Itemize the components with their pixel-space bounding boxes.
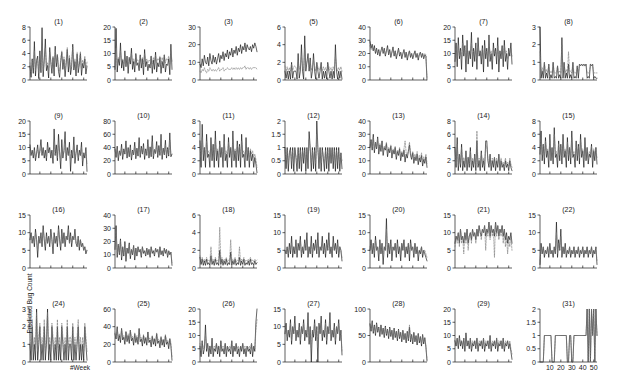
y-tick-label: 5 bbox=[447, 247, 451, 254]
series-line-actual bbox=[455, 333, 512, 360]
y-tick-label: 10 bbox=[528, 229, 536, 236]
y-tick-label: 0 bbox=[447, 171, 451, 178]
subplot-5: (5)0246 bbox=[259, 14, 350, 99]
axis-lines bbox=[540, 215, 597, 268]
y-tick-label: 0 bbox=[107, 265, 111, 272]
y-tick-label: 6 bbox=[192, 131, 196, 138]
subplot-29: (29)05101520 bbox=[429, 296, 520, 381]
series-line-predicted bbox=[285, 134, 342, 163]
y-tick-label: 6 bbox=[192, 212, 196, 219]
subplot-31: (31)00.511.521020304050 bbox=[514, 296, 605, 381]
y-tick-label: 0 bbox=[22, 359, 26, 366]
y-tick-label: 1 bbox=[277, 144, 281, 151]
subplot-20: (20)051015 bbox=[344, 202, 435, 287]
axis-lines bbox=[370, 27, 427, 80]
y-tick-label: 0 bbox=[192, 171, 196, 178]
y-tick-label: 20 bbox=[358, 144, 366, 151]
y-tick-label: 15 bbox=[18, 131, 26, 138]
series-line-actual bbox=[285, 36, 342, 79]
subplot-title: (13) bbox=[392, 112, 404, 120]
y-tick-label: 0 bbox=[107, 171, 111, 178]
y-tick-label: 15 bbox=[273, 212, 281, 219]
y-tick-label: 6 bbox=[22, 37, 26, 44]
subplot-title: (18) bbox=[222, 206, 234, 214]
y-tick-label: 2 bbox=[192, 157, 196, 164]
y-tick-label: 60 bbox=[103, 131, 111, 138]
y-tick-label: 10 bbox=[273, 229, 281, 236]
y-tick-label: 1 bbox=[532, 59, 536, 66]
y-tick-label: 0 bbox=[532, 77, 536, 84]
subplot-28: (28)050100 bbox=[344, 296, 435, 381]
series-line-predicted bbox=[370, 137, 427, 164]
subplot-title: (25) bbox=[137, 300, 149, 308]
y-tick-label: 30 bbox=[358, 37, 366, 44]
y-tick-label: 3 bbox=[532, 24, 536, 31]
subplot-15: (15)02468 bbox=[514, 108, 605, 193]
subplot-6: (6)010203040 bbox=[344, 14, 435, 99]
y-tick-label: 0.5 bbox=[526, 345, 536, 352]
y-tick-label: 2 bbox=[532, 306, 536, 313]
y-tick-label: 40 bbox=[103, 212, 111, 219]
series-line-predicted bbox=[285, 48, 342, 72]
series-line-actual bbox=[115, 327, 172, 361]
y-tick-label: 4 bbox=[22, 50, 26, 57]
y-tick-label: 0 bbox=[277, 77, 281, 84]
y-tick-label: 30 bbox=[103, 225, 111, 232]
subplot-title: (2) bbox=[139, 18, 148, 26]
series-line-predicted bbox=[200, 66, 257, 73]
y-tick-label: 4 bbox=[192, 144, 196, 151]
axis-lines bbox=[200, 27, 257, 80]
y-tick-label: 10 bbox=[103, 50, 111, 57]
y-tick-label: 40 bbox=[358, 118, 366, 125]
y-tick-label: 2 bbox=[447, 157, 451, 164]
y-tick-label: 10 bbox=[103, 251, 111, 258]
subplot-27: (27)051015 bbox=[259, 296, 350, 381]
series-line-actual bbox=[200, 250, 257, 265]
subplot-title: (12) bbox=[307, 112, 319, 120]
y-tick-label: 100 bbox=[354, 306, 366, 313]
y-tick-label: 15 bbox=[188, 319, 196, 326]
y-tick-label: 0 bbox=[107, 77, 111, 84]
subplot-10: (10)020406080 bbox=[89, 108, 180, 193]
y-tick-label: 10 bbox=[188, 332, 196, 339]
y-tick-label: 30 bbox=[358, 131, 366, 138]
y-tick-label: 15 bbox=[528, 212, 536, 219]
series-line-actual bbox=[540, 128, 597, 168]
subplot-14: (14)02468 bbox=[429, 108, 520, 193]
y-tick-label: 5 bbox=[447, 345, 451, 352]
y-tick-label: 2 bbox=[277, 59, 281, 66]
y-tick-label: 0 bbox=[192, 265, 196, 272]
y-tick-label: 1.5 bbox=[271, 131, 281, 138]
y-tick-label: 5 bbox=[22, 157, 26, 164]
subplot-title: (17) bbox=[137, 206, 149, 214]
subplot-title: (31) bbox=[562, 300, 574, 308]
y-tick-label: 10 bbox=[358, 229, 366, 236]
y-tick-label: 6 bbox=[277, 24, 281, 31]
y-tick-label: 15 bbox=[273, 306, 281, 313]
series-line-actual bbox=[200, 124, 257, 172]
subplot-title: (22) bbox=[562, 206, 574, 214]
y-tick-label: 0 bbox=[22, 77, 26, 84]
y-tick-label: 10 bbox=[358, 157, 366, 164]
y-tick-label: 15 bbox=[443, 319, 451, 326]
y-tick-label: 6 bbox=[447, 131, 451, 138]
y-tick-label: 20 bbox=[18, 118, 26, 125]
y-tick-label: 15 bbox=[103, 37, 111, 44]
subplot-11: (11)02468 bbox=[174, 108, 265, 193]
axis-lines bbox=[455, 309, 512, 362]
y-tick-label: 10 bbox=[18, 144, 26, 151]
y-tick-label: 60 bbox=[103, 306, 111, 313]
subplot-3: (3)0102030 bbox=[174, 14, 265, 99]
y-tick-label: 20 bbox=[443, 306, 451, 313]
subplot-title: (27) bbox=[307, 300, 319, 308]
x-tick-label: 30 bbox=[568, 364, 576, 371]
y-tick-label: 4 bbox=[532, 144, 536, 151]
y-tick-label: 0 bbox=[277, 171, 281, 178]
y-tick-label: 8 bbox=[192, 118, 196, 125]
subplot-title: (6) bbox=[394, 18, 403, 26]
y-tick-label: 20 bbox=[188, 306, 196, 313]
y-tick-label: 20 bbox=[443, 24, 451, 31]
y-tick-label: 0 bbox=[362, 77, 366, 84]
y-tick-label: 80 bbox=[103, 118, 111, 125]
subplot-title: (28) bbox=[392, 300, 404, 308]
